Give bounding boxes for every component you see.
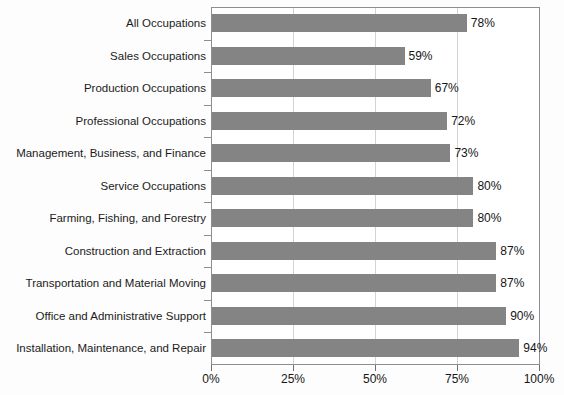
x-axis-tick bbox=[539, 365, 540, 371]
category-label: All Occupations bbox=[126, 7, 206, 40]
y-axis-tick bbox=[204, 332, 211, 333]
x-axis-tick-label: 75% bbox=[445, 372, 469, 386]
bar bbox=[212, 307, 506, 325]
bar-row: Service Occupations80% bbox=[0, 170, 564, 203]
bar-row: Installation, Maintenance, and Repair94% bbox=[0, 332, 564, 365]
x-axis-tick-label: 100% bbox=[524, 372, 555, 386]
bar bbox=[212, 47, 405, 65]
bar-row: Management, Business, and Finance73% bbox=[0, 137, 564, 170]
bar-value-label: 90% bbox=[510, 300, 534, 333]
bar-value-label: 78% bbox=[471, 7, 495, 40]
bar bbox=[212, 14, 467, 32]
category-label: Professional Occupations bbox=[76, 105, 206, 138]
y-axis-tick bbox=[204, 137, 211, 138]
bar-row: Farming, Fishing, and Forestry80% bbox=[0, 202, 564, 235]
bar-value-label: 59% bbox=[409, 40, 433, 73]
bar-row: Production Occupations67% bbox=[0, 72, 564, 105]
category-label: Transportation and Material Moving bbox=[26, 267, 206, 300]
bar-row: Sales Occupations59% bbox=[0, 40, 564, 73]
bar-value-label: 80% bbox=[477, 202, 501, 235]
y-axis-tick bbox=[204, 267, 211, 268]
bar-value-label: 67% bbox=[435, 72, 459, 105]
bar bbox=[212, 209, 473, 227]
bar-row: Office and Administrative Support90% bbox=[0, 300, 564, 333]
bar-value-label: 94% bbox=[523, 332, 547, 365]
category-label: Farming, Fishing, and Forestry bbox=[49, 202, 206, 235]
category-label: Installation, Maintenance, and Repair bbox=[16, 332, 206, 365]
bar bbox=[212, 242, 496, 260]
x-axis-tick bbox=[375, 365, 376, 371]
bar-row: Transportation and Material Moving87% bbox=[0, 267, 564, 300]
x-axis-tick-label: 50% bbox=[363, 372, 387, 386]
bar-value-label: 80% bbox=[477, 170, 501, 203]
bar-chart: All Occupations78%Sales Occupations59%Pr… bbox=[0, 0, 564, 395]
y-axis-tick bbox=[204, 300, 211, 301]
bar-value-label: 73% bbox=[454, 137, 478, 170]
chart-title-cropped bbox=[0, 0, 564, 6]
bar-row: Professional Occupations72% bbox=[0, 105, 564, 138]
x-axis-tick bbox=[293, 365, 294, 371]
category-label: Production Occupations bbox=[84, 72, 206, 105]
bar bbox=[212, 339, 519, 357]
x-axis-tick-label: 25% bbox=[281, 372, 305, 386]
y-axis-tick bbox=[204, 235, 211, 236]
y-axis-tick bbox=[204, 72, 211, 73]
bar-value-label: 87% bbox=[500, 235, 524, 268]
x-axis-tick-label: 0% bbox=[202, 372, 219, 386]
bar bbox=[212, 177, 473, 195]
x-axis: 0%25%50%75%100% bbox=[0, 365, 564, 395]
bar-value-label: 72% bbox=[451, 105, 475, 138]
x-axis-tick bbox=[457, 365, 458, 371]
bar-row: All Occupations78% bbox=[0, 7, 564, 40]
category-label: Service Occupations bbox=[101, 170, 206, 203]
y-axis-tick bbox=[204, 202, 211, 203]
y-axis-tick bbox=[204, 170, 211, 171]
y-axis-tick bbox=[204, 105, 211, 106]
bar-value-label: 87% bbox=[500, 267, 524, 300]
category-label: Management, Business, and Finance bbox=[16, 137, 206, 170]
bar bbox=[212, 274, 496, 292]
bar-rows: All Occupations78%Sales Occupations59%Pr… bbox=[0, 7, 564, 365]
bar bbox=[212, 112, 447, 130]
y-axis-tick bbox=[204, 40, 211, 41]
bar bbox=[212, 79, 431, 97]
category-label: Construction and Extraction bbox=[65, 235, 206, 268]
x-axis-tick bbox=[211, 365, 212, 371]
bar-row: Construction and Extraction87% bbox=[0, 235, 564, 268]
bar bbox=[212, 144, 450, 162]
category-label: Sales Occupations bbox=[110, 40, 206, 73]
category-label: Office and Administrative Support bbox=[36, 300, 206, 333]
